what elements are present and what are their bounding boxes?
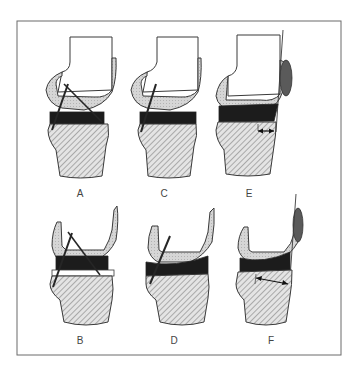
label-panel-e: E (246, 189, 253, 199)
label-panel-f: F (268, 336, 274, 346)
panel-f (236, 194, 303, 325)
panel-d (146, 208, 214, 325)
panel-c (131, 37, 201, 178)
label-panel-b: B (77, 336, 84, 346)
panel-a (46, 37, 116, 178)
knee-implant-diagram: A C E B D F (0, 0, 356, 376)
label-panel-d: D (170, 336, 177, 346)
panel-b (50, 206, 118, 325)
panel-e (216, 30, 292, 176)
label-panel-a: A (77, 189, 84, 199)
patella-e (280, 60, 292, 96)
label-panel-c: C (160, 189, 167, 199)
